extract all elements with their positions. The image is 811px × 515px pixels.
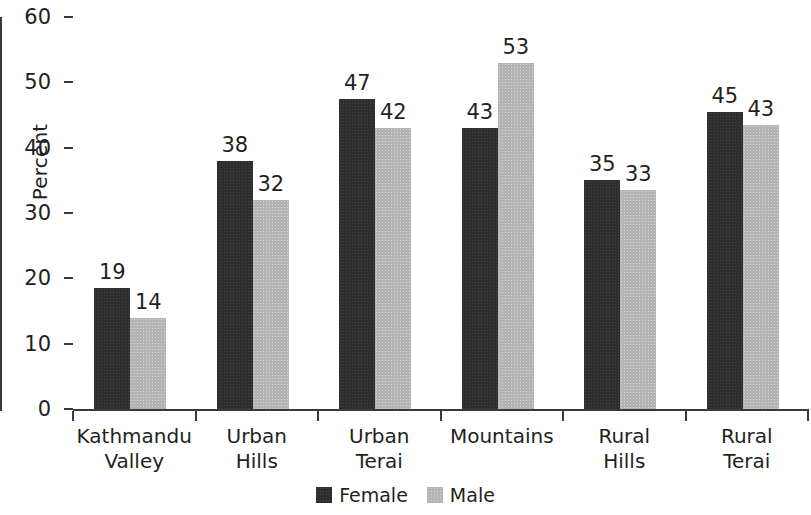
bar-female[interactable] — [462, 128, 498, 409]
legend-swatch-female-icon — [316, 487, 332, 503]
x-axis-label: RuralTerai — [662, 424, 811, 474]
y-axis-tick — [64, 408, 73, 410]
y-axis-tick — [64, 212, 73, 214]
bar-female[interactable] — [217, 161, 253, 409]
legend: FemaleMale — [0, 484, 811, 506]
bar-group: 4742 — [339, 17, 411, 409]
legend-item-male[interactable]: Male — [427, 484, 495, 506]
y-axis-tick — [64, 343, 73, 345]
x-axis-tick — [440, 411, 442, 421]
bar-group: 4543 — [707, 17, 779, 409]
bar-male[interactable] — [620, 190, 656, 409]
y-axis-tick-label: 0 — [0, 397, 51, 421]
y-axis-tick — [64, 147, 73, 149]
x-axis-tick — [317, 411, 319, 421]
legend-item-female[interactable]: Female — [316, 484, 408, 506]
y-axis-tick-label: 60 — [0, 5, 51, 29]
bar-male[interactable] — [743, 125, 779, 409]
bar-male[interactable] — [498, 63, 534, 409]
y-axis-tick — [64, 81, 73, 83]
bar-female[interactable] — [707, 112, 743, 409]
bar-male[interactable] — [253, 200, 289, 409]
x-axis-tick — [72, 411, 74, 421]
x-axis-tick — [807, 411, 809, 421]
bar-value-label: 53 — [486, 35, 546, 59]
y-axis-tick — [64, 277, 73, 279]
y-axis-tick — [64, 16, 73, 18]
legend-label: Male — [450, 484, 495, 506]
x-axis-label-line: Terai — [294, 449, 464, 474]
x-axis-tick — [685, 411, 687, 421]
bar-male[interactable] — [375, 128, 411, 409]
bar-value-label: 19 — [82, 260, 142, 284]
bar-value-label: 14 — [118, 290, 178, 314]
y-axis-tick-label: 20 — [0, 266, 51, 290]
y-axis-tick-label: 50 — [0, 70, 51, 94]
bar-group: 1914 — [94, 17, 166, 409]
x-axis-label-line: Rural — [662, 424, 811, 449]
bar-group: 3832 — [217, 17, 289, 409]
bar-male[interactable] — [130, 318, 166, 409]
bar-group: 4353 — [462, 17, 534, 409]
bar-value-label: 33 — [608, 162, 668, 186]
bar-value-label: 38 — [205, 133, 265, 157]
y-axis-tick-label: 30 — [0, 201, 51, 225]
bar-value-label: 43 — [731, 97, 791, 121]
x-axis-tick — [562, 411, 564, 421]
x-axis-tick — [195, 411, 197, 421]
bar-value-label: 47 — [327, 71, 387, 95]
bar-group: 3533 — [584, 17, 656, 409]
bar-chart: Percent 191438324742435335334543 0102030… — [0, 0, 811, 515]
bar-value-label: 32 — [241, 172, 301, 196]
y-axis-tick-label: 40 — [0, 136, 51, 160]
legend-swatch-male-icon — [427, 487, 443, 503]
x-axis-label-line: Terai — [662, 449, 811, 474]
bar-female[interactable] — [584, 180, 620, 409]
plot-area: 191438324742435335334543 — [73, 17, 808, 409]
legend-label: Female — [339, 484, 408, 506]
bar-female[interactable] — [339, 99, 375, 409]
bar-value-label: 42 — [363, 100, 423, 124]
y-axis-tick-label: 10 — [0, 332, 51, 356]
